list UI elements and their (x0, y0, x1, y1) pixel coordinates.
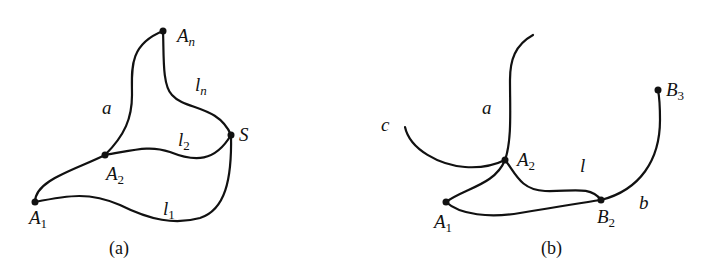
label-a2: A2 (515, 149, 535, 173)
label-a2: A2 (104, 163, 124, 187)
label-b: b (639, 192, 649, 213)
point-s (228, 132, 235, 139)
point-a1 (32, 199, 39, 206)
curve-a1-a2 (35, 155, 105, 202)
label-ln: ln (195, 74, 207, 98)
label-a: a (482, 97, 492, 118)
point-a1 (443, 199, 450, 206)
point-b2 (598, 197, 605, 204)
point-a2 (102, 152, 109, 159)
label-b3: B3 (666, 79, 684, 103)
curve-b (601, 90, 660, 200)
curve-a (505, 35, 533, 160)
label-c: c (381, 114, 390, 135)
label-a1: A1 (432, 211, 452, 235)
label-l2: l2 (178, 129, 190, 153)
label-a1: A1 (27, 207, 47, 231)
point-b3 (655, 87, 662, 94)
curve-a1-b2 (446, 200, 601, 215)
curve-l1 (35, 135, 231, 221)
curve-c (405, 127, 505, 167)
curve-l2 (105, 135, 231, 158)
figure-a: An ln a l2 S A2 l1 A1 (a) (27, 25, 249, 259)
label-b2: B2 (597, 206, 615, 230)
label-an: An (175, 25, 195, 49)
caption-b: (b) (541, 238, 562, 259)
label-s: S (239, 124, 249, 145)
label-l: l (580, 155, 585, 176)
caption-a: (a) (109, 238, 129, 259)
curve-a (105, 31, 163, 155)
point-an (160, 28, 167, 35)
figure-b: c a A2 l B3 b A1 B2 (b) (381, 35, 684, 259)
point-a2 (502, 157, 509, 164)
figure-canvas: An ln a l2 S A2 l1 A1 (a) (0, 0, 706, 278)
label-l1: l1 (163, 198, 175, 222)
label-a: a (102, 97, 112, 118)
